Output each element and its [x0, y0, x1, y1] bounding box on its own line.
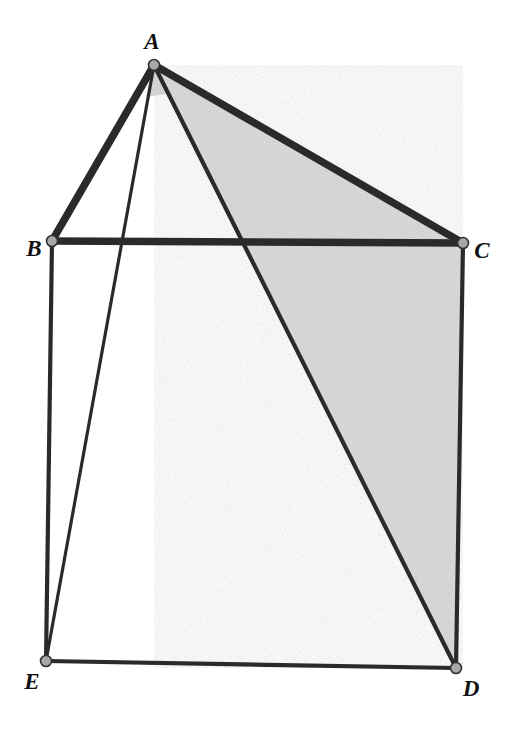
vertex-label-c: C [474, 239, 489, 262]
vertex-label-b: B [26, 237, 41, 260]
vertex-label-e: E [24, 670, 39, 693]
geometry-canvas [0, 0, 509, 734]
vertex-point-c[interactable] [458, 238, 469, 249]
vertex-label-a: A [144, 30, 159, 53]
vertex-point-b[interactable] [47, 236, 58, 247]
vertex-point-e[interactable] [41, 656, 52, 667]
geometry-figure: A B C D E [0, 0, 509, 734]
vertex-label-d: D [463, 677, 480, 700]
segment-b-c [52, 241, 463, 243]
vertex-point-d[interactable] [451, 663, 462, 674]
vertex-point-a[interactable] [149, 60, 160, 71]
segment-e-d [46, 661, 456, 668]
segment-b-e [46, 241, 52, 661]
